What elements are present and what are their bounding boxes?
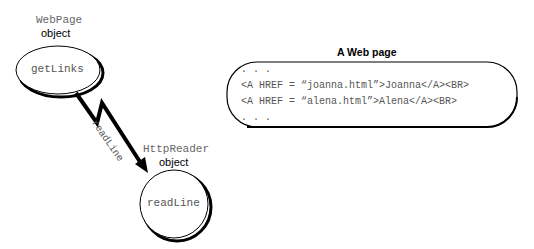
readline-method-label: readLine	[147, 197, 200, 209]
lightning-arrow-icon	[76, 93, 148, 173]
web-page-code: . . . <A HREF = “joanna.html”>Joanna</A>…	[241, 62, 469, 126]
getlinks-method-label: getLinks	[31, 63, 84, 75]
code-line: . . .	[241, 62, 469, 78]
web-page-title: A Web page	[337, 46, 397, 58]
webpage-class-label: WebPage	[36, 14, 82, 26]
webpage-object-label: object	[41, 27, 70, 39]
code-line: <A HREF = “alena.html”>Alena</A><BR>	[241, 94, 469, 110]
httpreader-object-label: object	[159, 156, 188, 168]
code-line: . . .	[241, 110, 469, 126]
httpreader-class-label: HttpReader	[143, 143, 209, 155]
code-line: <A HREF = “joanna.html”>Joanna</A><BR>	[241, 78, 469, 94]
